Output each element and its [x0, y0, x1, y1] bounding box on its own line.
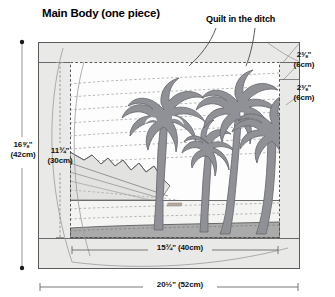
dimension-inner-width: 15¾" (40cm): [150, 243, 210, 252]
dimension-inner-height-inches: 11¾": [51, 146, 70, 155]
quilt-in-the-ditch-label: Quilt in the ditch: [206, 14, 275, 24]
dimension-inner-height-cm: (30cm): [47, 156, 72, 165]
dimension-inner-height: 11¾" (30cm): [42, 146, 78, 165]
dimension-outer-width: 20½" (52cm): [145, 280, 215, 289]
dimension-border-top: 2⅜" (6cm): [289, 50, 319, 69]
dimension-outer-height: 16⅝" (42cm): [6, 140, 40, 159]
dimension-border-right-inches: 2⅜": [297, 83, 312, 92]
diagram-root: Main Body (one piece) Quilt in the ditch…: [0, 0, 335, 297]
dimension-border-top-cm: (6cm): [294, 60, 315, 69]
dimension-outer-height-inches: 16⅝": [14, 140, 33, 149]
dimension-border-right: 2⅜" (6cm): [289, 83, 319, 102]
dimension-outer-height-cm: (42cm): [10, 150, 35, 159]
page-title: Main Body (one piece): [42, 7, 160, 19]
shore-detail: [167, 203, 182, 206]
dimension-border-right-cm: (6cm): [294, 93, 315, 102]
dimension-border-top-inches: 2⅜": [297, 50, 312, 59]
